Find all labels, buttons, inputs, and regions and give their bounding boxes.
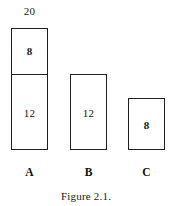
category-label-c: C	[128, 166, 165, 178]
figure-2-1: 20 8 12 12 8 A B C Figure 2.1.	[0, 0, 172, 206]
bar-b-segment: 12	[71, 75, 106, 151]
bar-a: 8 12	[11, 28, 48, 150]
bar-a-segment-lower-value: 12	[24, 108, 35, 119]
bar-a-segment-upper-value: 8	[27, 46, 33, 57]
category-label-a: A	[11, 166, 48, 178]
bar-b: 12	[70, 74, 107, 150]
bar-a-total-label: 20	[11, 6, 48, 17]
bar-c-segment-value: 8	[144, 120, 150, 131]
bar-b-segment-value: 12	[83, 108, 94, 119]
bar-c: 8	[128, 98, 165, 150]
bar-a-segment-upper: 8	[12, 29, 47, 75]
category-label-b: B	[70, 166, 107, 178]
bar-a-segment-lower: 12	[12, 75, 47, 151]
figure-caption: Figure 2.1.	[0, 190, 172, 202]
bar-c-segment: 8	[129, 99, 164, 151]
